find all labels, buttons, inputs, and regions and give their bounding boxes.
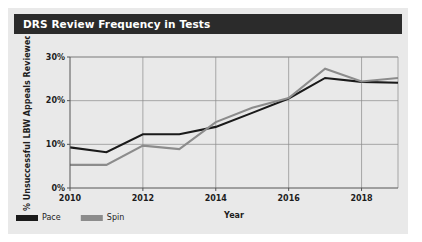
page-title: DRS Review Frequency in Tests (14, 18, 210, 30)
x-axis-title: Year (223, 211, 244, 220)
x-axis-tick: 2014 (205, 188, 228, 203)
y-axis-tick: 10% (46, 140, 70, 149)
legend-item-spin[interactable]: Spin (81, 213, 124, 222)
chart-title-bar: DRS Review Frequency in Tests (14, 14, 402, 34)
legend-swatch (81, 215, 103, 221)
x-axis-tick-label: 2014 (205, 194, 228, 203)
series-group (70, 69, 398, 165)
x-axis-tick: 2012 (132, 188, 154, 203)
y-axis-title: % Unsuccessful LBW Appeals Reviewed (23, 36, 32, 211)
legend-item-pace[interactable]: Pace (16, 213, 61, 222)
y-axis-tick-label: 0% (51, 184, 65, 193)
x-axis-tick-label: 2012 (132, 194, 154, 203)
x-axis-tick: 2016 (278, 188, 301, 203)
y-axis-tick-label: 30% (46, 53, 65, 62)
y-axis-ticks-group: 0%10%20%30% (46, 53, 70, 193)
x-axis-tick-label: 2016 (278, 194, 301, 203)
y-axis-tick: 20% (46, 96, 70, 105)
y-axis-tick-label: 20% (46, 96, 65, 105)
legend-label: Pace (42, 213, 61, 222)
y-axis-tick: 30% (46, 53, 70, 62)
legend-swatch (16, 215, 38, 221)
legend-label: Spin (107, 213, 124, 222)
line-chart: 0%10%20%30% 20102012201420162018 % Unsuc… (8, 36, 408, 234)
chart-card: DRS Review Frequency in Tests 0%10%20%30… (8, 8, 408, 234)
y-axis-tick-label: 10% (46, 140, 65, 149)
x-axis-tick-label: 2010 (59, 194, 82, 203)
series-line-spin (70, 69, 398, 165)
x-axis-tick: 2018 (350, 188, 373, 203)
x-axis-ticks-group: 20102012201420162018 (59, 188, 373, 203)
x-axis-tick-label: 2018 (350, 194, 373, 203)
y-axis-tick: 0% (51, 184, 70, 193)
chart-legend: PaceSpin (16, 213, 124, 222)
chart-plot-area: 0%10%20%30% 20102012201420162018 % Unsuc… (8, 36, 408, 234)
